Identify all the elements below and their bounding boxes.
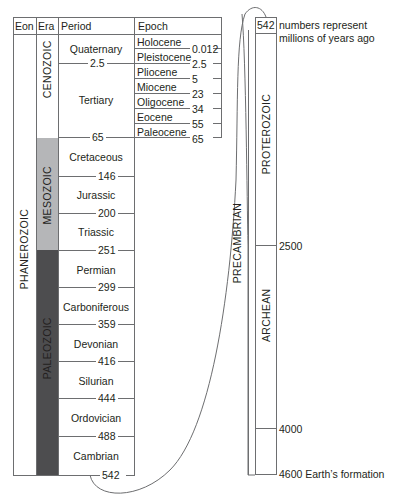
eon-precambrian-label: PRECAMBRIAN: [232, 203, 243, 283]
eon-archean-label: ARCHEAN: [261, 275, 272, 355]
mark-4000: 4000: [279, 424, 302, 435]
note-line-1: numbers represent: [279, 20, 367, 31]
eon-proterozoic-label: PROTEROZOIC: [261, 94, 272, 174]
connector-curves: [0, 0, 396, 498]
mark-2500: 2500: [279, 241, 302, 252]
precambrian-top-542: 542: [257, 20, 275, 31]
note-line-2: millions of years ago: [279, 33, 375, 44]
mark-4600-earth-formation: 4600 Earth’s formation: [279, 469, 384, 480]
